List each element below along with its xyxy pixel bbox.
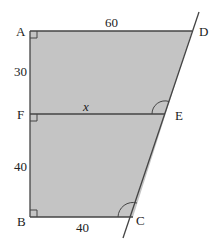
vertex-c-label: C (136, 213, 145, 228)
vertex-f-label: F (17, 107, 24, 122)
length-ad-label: 60 (105, 15, 118, 30)
length-fb-label: 40 (14, 159, 27, 174)
length-fe-label: x (82, 99, 89, 114)
shaded-region (30, 31, 192, 217)
vertex-a-label: A (16, 24, 26, 39)
trapezium-diagram: A D F E B C 60 30 x 40 40 (0, 0, 216, 250)
length-bc-label: 40 (76, 220, 89, 235)
vertex-b-label: B (17, 214, 26, 229)
vertex-d-label: D (199, 24, 208, 39)
vertex-e-label: E (175, 108, 183, 123)
length-af-label: 30 (14, 64, 27, 79)
